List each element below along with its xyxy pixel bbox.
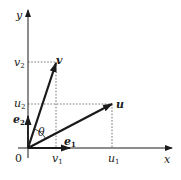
y-axis-label: y <box>15 9 23 22</box>
e2-label-sub: 2 <box>20 118 25 127</box>
origin-label: 0 <box>15 152 22 165</box>
u1-label: u1 <box>108 152 120 166</box>
theta-label: θ <box>38 126 45 139</box>
e1-label-base: e <box>64 135 71 148</box>
v2-label-sub: 2 <box>20 62 24 70</box>
e1-label: e1 <box>64 135 76 149</box>
x-axis-label: x <box>164 153 171 166</box>
u2-label-base: u <box>14 97 21 110</box>
u2-label-sub: 2 <box>21 103 25 111</box>
v2-label: v2 <box>14 56 25 70</box>
e2-label-base: e <box>13 113 20 126</box>
v-label: v <box>56 54 63 67</box>
v1-label-sub: 1 <box>58 158 62 166</box>
u1-label-base: u <box>108 152 115 165</box>
vector-diagram: y x 0 v u v2 u2 v1 u1 e1 e2 θ <box>0 0 181 180</box>
u2-label: u2 <box>14 97 26 111</box>
v1-label: v1 <box>52 152 63 166</box>
e2-label: e2 <box>13 113 25 127</box>
u1-label-sub: 1 <box>115 158 119 166</box>
e1-label-sub: 1 <box>71 140 76 149</box>
u-label: u <box>116 98 124 111</box>
